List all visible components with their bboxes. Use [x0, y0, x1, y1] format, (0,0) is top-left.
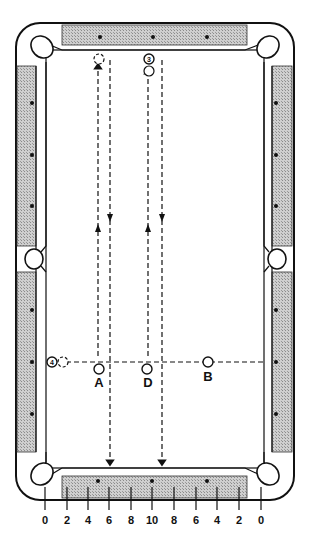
svg-text:10: 10 [146, 514, 158, 526]
svg-text:0: 0 [258, 514, 264, 526]
bottom-rail [62, 476, 247, 498]
svg-text:8: 8 [171, 514, 177, 526]
table-outer-frame [16, 23, 294, 500]
position-d-ball [142, 364, 152, 374]
svg-text:6: 6 [106, 514, 112, 526]
pocket-side-right [268, 249, 286, 269]
label-a: A [94, 375, 104, 390]
ghost-ball-top-d [144, 66, 154, 76]
pocket-side-left [25, 249, 43, 269]
pool-table-diagram: 3 4 A D B 0 2 4 6 8 10 8 6 4 2 0 [0, 0, 311, 538]
svg-text:0: 0 [42, 514, 48, 526]
scale-labels: 0 2 4 6 8 10 8 6 4 2 0 [42, 514, 264, 526]
svg-text:2: 2 [236, 514, 242, 526]
ghost-ball-top-a [94, 54, 104, 64]
svg-text:2: 2 [64, 514, 70, 526]
svg-text:6: 6 [193, 514, 199, 526]
position-a-ball [94, 364, 104, 374]
svg-text:8: 8 [128, 514, 134, 526]
svg-text:3: 3 [147, 56, 151, 63]
svg-text:4: 4 [85, 514, 92, 526]
ball-3: 3 [144, 54, 154, 64]
position-b-ball [203, 357, 213, 367]
svg-text:4: 4 [214, 514, 221, 526]
label-d: D [143, 375, 152, 390]
top-rail [62, 25, 247, 45]
svg-text:4: 4 [50, 359, 54, 366]
label-b: B [203, 369, 212, 384]
